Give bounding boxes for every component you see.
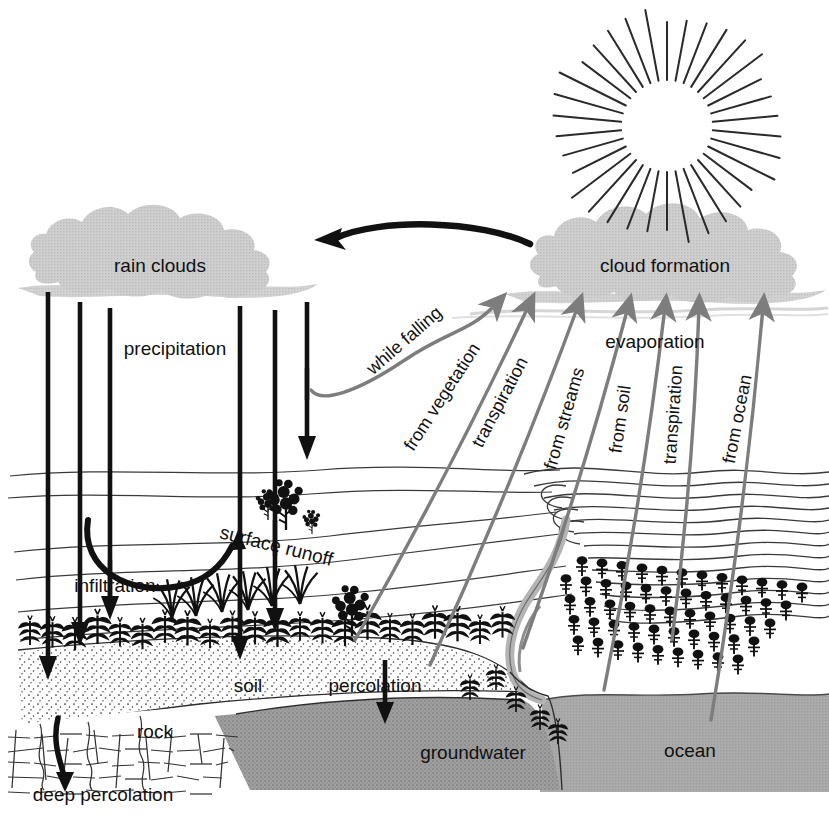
label-precipitation: precipitation (124, 338, 226, 359)
label-infiltration: infiltration (74, 575, 155, 596)
hydrologic-cycle-diagram: rain clouds cloud formation precipitatio… (0, 0, 829, 816)
label-cloud-formation: cloud formation (600, 255, 730, 276)
label-rock: rock (137, 721, 173, 742)
label-ocean: ocean (664, 740, 716, 761)
label-evaporation: evaporation (605, 331, 704, 352)
label-percolation: percolation (329, 675, 422, 696)
label-deep-percolation: deep percolation (33, 784, 174, 805)
label-groundwater: groundwater (420, 742, 526, 763)
label-rain-clouds: rain clouds (114, 255, 206, 276)
label-soil: soil (234, 675, 263, 696)
